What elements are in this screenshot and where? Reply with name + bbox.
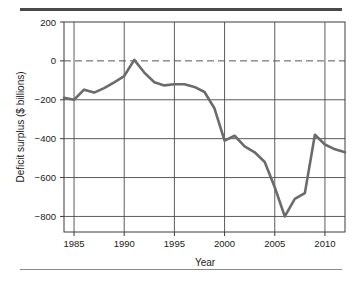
x-tick-label-2005: 2005 xyxy=(264,238,285,249)
x-tick-label-2000: 2000 xyxy=(214,238,235,249)
x-tick-label-2010: 2010 xyxy=(314,238,335,249)
y-tick-label-0: 0 xyxy=(51,55,56,66)
figure-container: 2000−200−400−600−800 1985199019952000200… xyxy=(0,0,361,281)
x-tick-label-1985: 1985 xyxy=(63,238,84,249)
x-axis-tick-labels: 198519901995200020052010 xyxy=(63,238,335,249)
y-tick-label--600: −600 xyxy=(35,172,56,183)
y-axis-tick-labels: 2000−200−400−600−800 xyxy=(35,17,56,222)
x-axis-title: Year xyxy=(195,257,216,268)
y-tick-label--200: −200 xyxy=(35,94,56,105)
x-tick-label-1995: 1995 xyxy=(164,238,185,249)
y-axis-title: Deficit surplus ($ billions) xyxy=(15,71,26,182)
x-tick-label-1990: 1990 xyxy=(114,238,135,249)
y-tick-label-200: 200 xyxy=(40,17,56,28)
plot-area-background xyxy=(64,22,345,232)
deficit-surplus-line-chart: 2000−200−400−600−800 1985199019952000200… xyxy=(0,0,361,281)
bottom-divider-rule xyxy=(20,269,342,270)
y-tick-label--800: −800 xyxy=(35,211,56,222)
y-tick-label--400: −400 xyxy=(35,133,56,144)
